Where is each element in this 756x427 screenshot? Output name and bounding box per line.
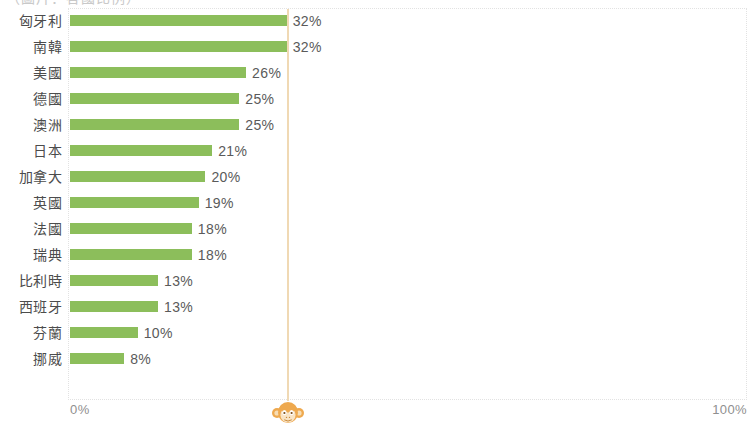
bar-value-label: 20% (211, 164, 240, 190)
bar-track: 26% (70, 60, 747, 86)
bar-track: 25% (70, 86, 747, 112)
bar-category-label: 法國 (0, 216, 62, 242)
chart-title: （圖片：各國比例） (6, 0, 141, 7)
bar[interactable] (70, 327, 138, 338)
bar-track: 21% (70, 138, 747, 164)
bar-row: 澳洲25% (0, 112, 756, 138)
axis-tick-min: 0% (70, 402, 90, 417)
bar-category-label: 日本 (0, 138, 62, 164)
bar-value-label: 19% (205, 190, 234, 216)
bar-value-label: 10% (144, 320, 173, 346)
bar[interactable] (70, 93, 239, 104)
bar-track: 25% (70, 112, 747, 138)
bar-value-label: 21% (218, 138, 247, 164)
bar-value-label: 18% (198, 242, 227, 268)
bar[interactable] (70, 41, 287, 52)
bar-track: 18% (70, 242, 747, 268)
bar[interactable] (70, 145, 212, 156)
bar-value-label: 32% (293, 8, 322, 34)
bar-value-label: 25% (245, 86, 274, 112)
bar-value-label: 32% (293, 34, 322, 60)
bar-row: 比利時13% (0, 268, 756, 294)
bar-track: 8% (70, 346, 747, 372)
bar-value-label: 25% (245, 112, 274, 138)
bar-value-label: 8% (130, 346, 151, 372)
bar-category-label: 美國 (0, 60, 62, 86)
bar-rows: 匈牙利32%南韓32%美國26%德國25%澳洲25%日本21%加拿大20%英國1… (0, 8, 756, 372)
bar-value-label: 13% (164, 294, 193, 320)
bar-track: 32% (70, 8, 747, 34)
bar-row: 美國26% (0, 60, 756, 86)
bar[interactable] (70, 197, 199, 208)
x-axis: 0% 100% (0, 400, 756, 427)
axis-tick-max: 100% (712, 402, 747, 417)
bar[interactable] (70, 301, 158, 312)
bar-row: 德國25% (0, 86, 756, 112)
bar-track: 13% (70, 268, 747, 294)
bar[interactable] (70, 67, 246, 78)
bar-category-label: 芬蘭 (0, 320, 62, 346)
bar-row: 南韓32% (0, 34, 756, 60)
bar-row: 法國18% (0, 216, 756, 242)
bar[interactable] (70, 353, 124, 364)
bar-row: 英國19% (0, 190, 756, 216)
bar-row: 挪威8% (0, 346, 756, 372)
bar[interactable] (70, 275, 158, 286)
bar-value-label: 26% (252, 60, 281, 86)
monkey-face-icon (272, 399, 304, 427)
bar-track: 10% (70, 320, 747, 346)
bar-category-label: 比利時 (0, 268, 62, 294)
bar-category-label: 挪威 (0, 346, 62, 372)
bar[interactable] (70, 223, 192, 234)
bar-chart: （圖片：各國比例） 匈牙利32%南韓32%美國26%德國25%澳洲25%日本21… (0, 0, 756, 427)
bar-category-label: 瑞典 (0, 242, 62, 268)
bar[interactable] (70, 249, 192, 260)
bar[interactable] (70, 171, 205, 182)
bar-track: 19% (70, 190, 747, 216)
bar-row: 匈牙利32% (0, 8, 756, 34)
bar-category-label: 加拿大 (0, 164, 62, 190)
bar[interactable] (70, 15, 287, 26)
bar-row: 日本21% (0, 138, 756, 164)
bar-row: 加拿大20% (0, 164, 756, 190)
bar-row: 西班牙13% (0, 294, 756, 320)
bar-row: 瑞典18% (0, 242, 756, 268)
bar-value-label: 13% (164, 268, 193, 294)
bar-track: 18% (70, 216, 747, 242)
bar-track: 20% (70, 164, 747, 190)
bar-category-label: 南韓 (0, 34, 62, 60)
bar[interactable] (70, 119, 239, 130)
bar-category-label: 西班牙 (0, 294, 62, 320)
bar-track: 32% (70, 34, 747, 60)
bar-value-label: 18% (198, 216, 227, 242)
bar-track: 13% (70, 294, 747, 320)
bar-category-label: 英國 (0, 190, 62, 216)
bar-category-label: 匈牙利 (0, 8, 62, 34)
bar-row: 芬蘭10% (0, 320, 756, 346)
bar-category-label: 澳洲 (0, 112, 62, 138)
bar-category-label: 德國 (0, 86, 62, 112)
